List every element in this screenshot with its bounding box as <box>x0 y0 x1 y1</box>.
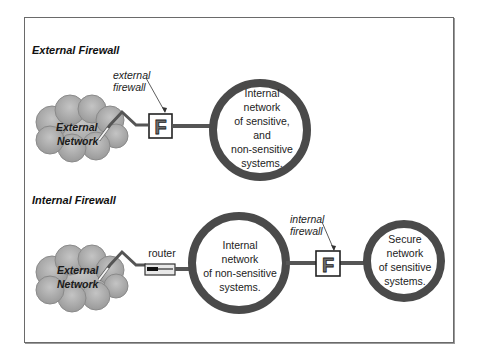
cloud-label-line1: External <box>57 264 100 276</box>
callout-line1: internal <box>290 213 325 225</box>
svg-text:of non-sensitive: of non-sensitive <box>203 267 277 279</box>
arrow-head-icon <box>331 245 336 251</box>
svg-text:systems.: systems. <box>384 275 425 287</box>
svg-text:Internal: Internal <box>222 239 257 251</box>
callout-line2: firewall <box>290 225 323 237</box>
svg-text:Internal: Internal <box>244 87 279 99</box>
svg-text:network: network <box>244 101 282 113</box>
router-led <box>147 267 158 271</box>
svg-text:network: network <box>387 247 425 259</box>
svg-text:network: network <box>222 253 260 265</box>
arrow-head-icon <box>162 107 167 113</box>
svg-text:systems.: systems. <box>241 157 282 169</box>
cloud-label-line1: External <box>56 121 99 133</box>
section-external-firewall: External Firewall external firewall Exte… <box>32 44 307 177</box>
router-label: router <box>148 247 176 259</box>
firewall-icon: F <box>154 116 166 138</box>
section-title: External Firewall <box>32 44 120 56</box>
svg-text:of sensitive,: of sensitive, <box>234 115 289 127</box>
cloud-label-line2: Network <box>57 135 100 147</box>
svg-text:non-sensitive: non-sensitive <box>231 143 293 155</box>
firewall-icon: F <box>322 254 334 276</box>
router-slot <box>158 268 173 270</box>
callout-line1: external <box>113 69 151 81</box>
svg-text:Secure: Secure <box>388 233 421 245</box>
callout-line2: firewall <box>113 81 146 93</box>
svg-text:and: and <box>253 129 271 141</box>
svg-text:of sensitive: of sensitive <box>379 261 432 273</box>
section-internal-firewall: Internal Firewall External Network route… <box>32 194 441 312</box>
section-title: Internal Firewall <box>32 194 117 206</box>
callout-leader-line <box>146 78 165 112</box>
cloud-label-line2: Network <box>57 278 100 290</box>
svg-text:systems.: systems. <box>219 281 260 293</box>
firewall-diagram: External Firewall external firewall Exte… <box>0 0 477 361</box>
